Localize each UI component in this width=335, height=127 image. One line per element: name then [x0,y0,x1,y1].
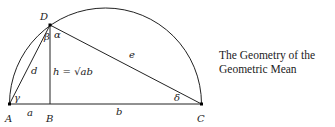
label-a: a [27,107,33,118]
label-e: e [129,49,135,60]
label-D: D [39,11,48,22]
semicircle-arc [10,8,202,104]
caption-line-2: Geometric Mean [219,62,335,76]
label-B: B [45,113,53,124]
diagram-caption: The Geometry of the Geometric Mean [219,48,335,76]
label-delta: δ [174,92,180,103]
point-C-marker [200,103,203,106]
label-alpha: α [54,29,61,40]
label-d: d [31,65,37,76]
label-gamma: γ [14,92,20,103]
label-h: h = √ab [53,66,93,77]
point-D-marker [49,24,52,27]
label-C: C [197,113,205,124]
label-beta: β [43,31,50,42]
point-A-marker [8,103,11,106]
label-A: A [4,113,12,124]
label-b: b [116,106,122,117]
caption-line-1: The Geometry of the [219,48,335,62]
